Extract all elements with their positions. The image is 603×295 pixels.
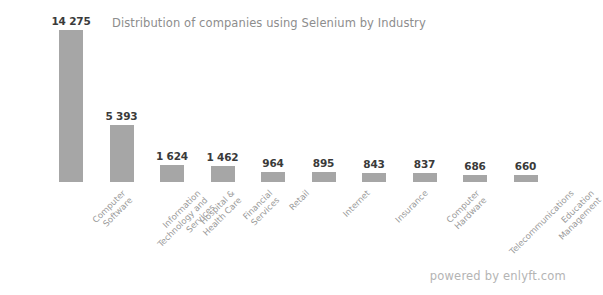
bar[interactable]: [59, 30, 83, 182]
bar[interactable]: [514, 175, 538, 182]
bar-value-label: 964: [253, 157, 293, 169]
x-axis-tick-label: EducationManagement: [549, 188, 603, 242]
bar-value-label: 5 393: [102, 110, 142, 122]
x-axis-tick-label: ComputerHardware: [444, 188, 488, 232]
bar-value-label: 14 275: [51, 15, 91, 27]
bar[interactable]: [413, 173, 437, 182]
bar[interactable]: [110, 125, 134, 182]
x-axis-tick-label: ComputerSoftware: [90, 188, 134, 232]
x-axis-tick-label-line: Insurance: [393, 188, 430, 225]
bar[interactable]: [463, 175, 487, 182]
bar[interactable]: [160, 165, 184, 182]
bar-value-label: 686: [455, 160, 495, 172]
bar-value-label: 843: [354, 158, 394, 170]
x-axis-tick-label: Internet: [340, 188, 371, 219]
footer-credit: powered by enlyft.com: [430, 269, 566, 283]
bar-value-label: 1 462: [203, 151, 243, 163]
bar[interactable]: [211, 166, 235, 182]
bar[interactable]: [261, 172, 285, 182]
bar-value-label: 895: [304, 157, 344, 169]
bar[interactable]: [362, 173, 386, 182]
bar-value-label: 660: [506, 160, 546, 172]
x-axis-tick-label: Retail: [287, 188, 311, 212]
x-axis-tick-label-line: Retail: [287, 188, 311, 212]
x-axis-tick-label: Insurance: [393, 188, 430, 225]
bar[interactable]: [312, 172, 336, 182]
bar-value-label: 837: [405, 158, 445, 170]
bar-value-label: 1 624: [152, 150, 192, 162]
x-axis-tick-label-line: Internet: [340, 188, 371, 219]
x-axis-tick-label: FinancialServices: [240, 188, 280, 228]
